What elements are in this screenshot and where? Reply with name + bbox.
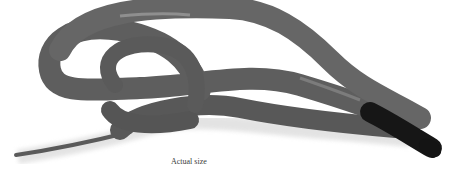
snake-illustration	[0, 0, 472, 183]
snake-image-figure: Actual size	[0, 0, 472, 183]
snake-body	[16, 7, 420, 157]
image-caption: Actual size	[171, 157, 207, 166]
